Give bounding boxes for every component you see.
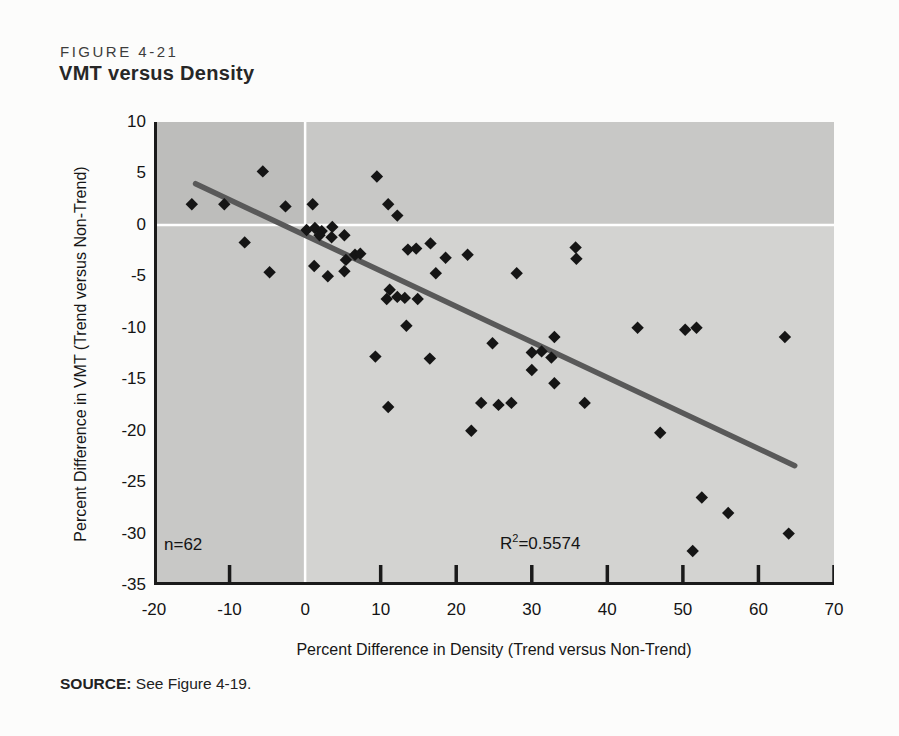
- y-tick-label: -20: [104, 422, 146, 440]
- left-quadrant-shade: [154, 122, 305, 585]
- y-tick-label: -25: [104, 473, 146, 491]
- y-tick-label: 10: [104, 113, 146, 131]
- x-tick-label: 40: [580, 600, 634, 620]
- source-prefix: SOURCE:: [60, 675, 131, 692]
- source-text: See Figure 4-19.: [131, 675, 251, 692]
- x-tick-label: 70: [807, 600, 861, 620]
- y-axis-title: Percent Difference in VMT (Trend versus …: [72, 121, 92, 587]
- source-note: SOURCE: See Figure 4-19.: [60, 675, 251, 693]
- x-tick-label: 30: [505, 600, 559, 620]
- scatter-plot-area: n=62 R2=0.5574: [154, 122, 834, 585]
- y-tick-label: -5: [104, 267, 146, 285]
- scatter-plot-canvas: [154, 122, 834, 585]
- figure-title: VMT versus Density: [59, 62, 254, 85]
- r-squared-annotation: R2=0.5574: [500, 534, 580, 554]
- y-tick-label: -30: [104, 525, 146, 543]
- figure-number-label: FIGURE 4-21: [60, 43, 178, 60]
- x-axis-title: Percent Difference in Density (Trend ver…: [154, 641, 834, 659]
- y-tick-label: 0: [104, 216, 146, 234]
- x-tick-label: -20: [127, 600, 181, 620]
- x-tick-label: 0: [278, 600, 332, 620]
- x-tick-label: 50: [656, 600, 710, 620]
- sample-size-annotation: n=62: [164, 535, 202, 555]
- x-tick-label: 60: [731, 600, 785, 620]
- y-tick-label: -35: [104, 576, 146, 594]
- y-tick-label: 5: [104, 164, 146, 182]
- r-squared-value: =0.5574: [518, 534, 580, 553]
- r-squared-base: R: [500, 534, 512, 553]
- y-tick-label: -10: [104, 319, 146, 337]
- x-tick-label: -10: [203, 600, 257, 620]
- x-tick-label: 10: [354, 600, 408, 620]
- document-page: FIGURE 4-21 VMT versus Density Percent D…: [0, 0, 899, 736]
- x-tick-label: 20: [429, 600, 483, 620]
- y-tick-label: -15: [104, 370, 146, 388]
